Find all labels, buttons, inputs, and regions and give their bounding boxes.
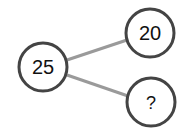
node-part-1: 20 (126, 9, 174, 57)
edge-whole-to-part-1 (67, 40, 127, 60)
node-whole-label: 25 (32, 56, 54, 78)
edge-whole-to-part-2 (67, 75, 128, 96)
number-bond-diagram: 25 20 ? (0, 0, 189, 128)
node-part-1-label: 20 (139, 22, 161, 44)
node-part-2-label: ? (146, 93, 156, 113)
node-whole: 25 (19, 43, 67, 91)
node-part-2: ? (127, 78, 175, 126)
